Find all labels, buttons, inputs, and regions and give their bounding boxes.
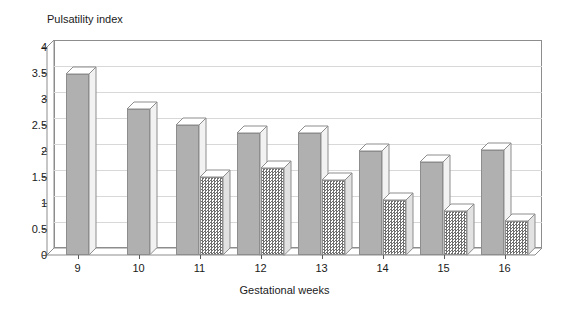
y-tick-label: 0.5 [0, 223, 56, 235]
y-tick-mark [42, 73, 47, 74]
x-tick-mark [383, 255, 384, 259]
bar-3d-caps [261, 168, 284, 255]
y-tick-mark [42, 99, 47, 100]
bar-series-a [481, 150, 504, 255]
y-tick-mark [42, 47, 47, 48]
x-tick-label: 16 [498, 262, 510, 274]
x-tick-label: 9 [74, 262, 80, 274]
x-tick-mark [261, 255, 262, 259]
bar-3d-caps [66, 74, 89, 255]
y-tick-label: 1.5 [0, 171, 56, 183]
bar-3d-caps [420, 162, 443, 255]
bar-3d-caps [127, 109, 150, 255]
y-tick-mark [42, 177, 47, 178]
x-axis-title: Gestational weeks [0, 284, 569, 296]
plot-area [47, 40, 549, 265]
y-axis-title: Pulsatility index [47, 13, 123, 25]
y-tick-mark [42, 125, 47, 126]
bar-3d-caps [359, 151, 382, 255]
bar-series-a [66, 74, 89, 255]
y-tick-label: 1 [0, 197, 56, 209]
bar-series-a [176, 125, 199, 255]
bar-series-a [127, 109, 150, 255]
x-tick-mark [505, 255, 506, 259]
y-tick-label: 3.5 [0, 67, 56, 79]
bar-3d-caps [383, 200, 406, 255]
gridline [54, 66, 542, 67]
x-tick-mark [139, 255, 140, 259]
bar-3d-caps [322, 180, 345, 255]
bar-series-a [359, 151, 382, 255]
y-tick-mark [42, 151, 47, 152]
bar-series-a [237, 133, 260, 255]
x-tick-label: 14 [376, 262, 388, 274]
x-tick-label: 12 [254, 262, 266, 274]
x-tick-label: 10 [132, 262, 144, 274]
bar-series-b [444, 211, 467, 255]
y-tick-mark [42, 229, 47, 230]
bar-3d-caps [176, 125, 199, 255]
bar-3d-caps [237, 133, 260, 255]
x-tick-mark [78, 255, 79, 259]
bar-series-b [261, 168, 284, 255]
y-tick-label: 2.5 [0, 119, 56, 131]
bar-series-b [383, 200, 406, 255]
y-tick-label: 4 [0, 41, 56, 53]
bar-3d-caps [200, 177, 223, 255]
x-tick-label: 11 [194, 262, 205, 274]
bar-3d-caps [298, 133, 321, 255]
bar-3d-caps [505, 221, 528, 255]
y-tick-mark [42, 203, 47, 204]
x-tick-label: 13 [315, 262, 327, 274]
y-tick-label: 0 [0, 249, 56, 261]
bar-series-b [322, 180, 345, 255]
bar-series-b [200, 177, 223, 255]
x-tick-mark [444, 255, 445, 259]
chart-figure: Pulsatility index 00.511.522.533.54 9101… [0, 0, 569, 310]
bar-3d-caps [444, 211, 467, 255]
y-tick-label: 3 [0, 93, 56, 105]
x-tick-label: 15 [437, 262, 449, 274]
bar-3d-caps [481, 150, 504, 255]
y-tick-mark [42, 255, 47, 256]
bar-series-a [298, 133, 321, 255]
x-tick-mark [322, 255, 323, 259]
x-tick-mark [200, 255, 201, 259]
bar-series-b [505, 221, 528, 255]
gridline [54, 92, 542, 93]
y-tick-label: 2 [0, 145, 56, 157]
bar-series-a [420, 162, 443, 255]
